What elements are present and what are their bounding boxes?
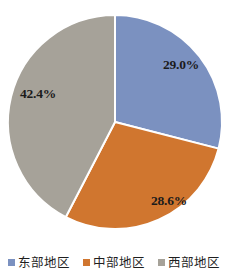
legend-item-east[interactable]: 东部地区 xyxy=(8,257,70,270)
legend-swatch-icon-west xyxy=(158,259,165,266)
pie-chart: 29.0% 28.6% 42.4% 东部地区 中部地区 西部地区 xyxy=(0,0,228,275)
legend-label-east: 东部地区 xyxy=(18,257,70,270)
legend-swatch-icon-central xyxy=(83,259,90,266)
legend-label-west: 西部地区 xyxy=(168,257,220,270)
pie-plot-area: 29.0% 28.6% 42.4% xyxy=(0,0,228,240)
legend-item-central[interactable]: 中部地区 xyxy=(83,257,145,270)
legend-label-central: 中部地区 xyxy=(93,257,145,270)
pie-svg xyxy=(0,0,228,240)
legend-item-west[interactable]: 西部地区 xyxy=(158,257,220,270)
pie-slice-group xyxy=(8,15,222,229)
chart-legend: 东部地区 中部地区 西部地区 xyxy=(0,257,228,270)
legend-swatch-icon-east xyxy=(8,259,15,266)
